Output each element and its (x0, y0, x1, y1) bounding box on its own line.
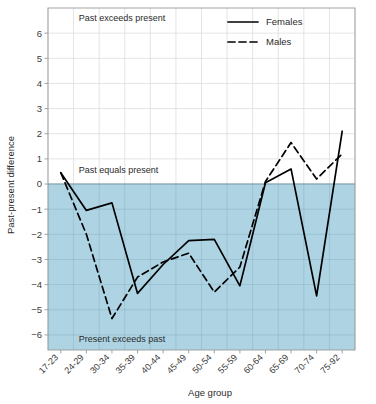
y-tick-label: 3 (37, 103, 42, 114)
annotation-label: Present exceeds past (79, 334, 166, 344)
y-tick-label: 0 (37, 178, 42, 189)
y-tick-label: 4 (37, 78, 42, 89)
past-present-difference-line-chart: −6−5−4−3−2−10123456 17-2324-2930-3435-39… (0, 0, 376, 404)
y-tick-label: −1 (31, 204, 42, 215)
y-tick-label: −3 (31, 254, 42, 265)
chart-container: −6−5−4−3−2−10123456 17-2324-2930-3435-39… (0, 0, 376, 404)
legend-label-females: Females (266, 16, 303, 27)
y-tick-label: −2 (31, 229, 42, 240)
y-tick-label: −6 (31, 329, 42, 340)
y-tick-label: −5 (31, 304, 42, 315)
y-axis-title: Past-present difference (5, 136, 16, 234)
x-axis-title: Age group (188, 387, 232, 398)
annotation-label: Past equals present (79, 165, 159, 175)
y-tick-label: 5 (37, 53, 42, 64)
y-tick-label: 2 (37, 128, 42, 139)
legend-label-males: Males (266, 36, 292, 47)
y-tick-label: 6 (37, 28, 42, 39)
annotation-label: Past exceeds present (79, 13, 166, 23)
y-tick-label: −4 (31, 279, 42, 290)
y-tick-label: 1 (37, 153, 42, 164)
